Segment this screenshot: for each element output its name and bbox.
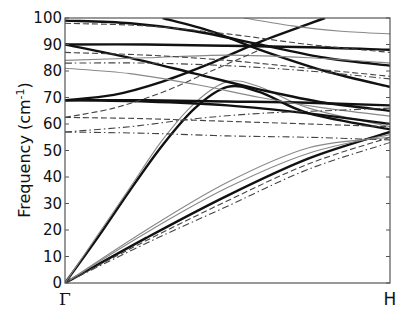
band-optical-90: [65, 44, 390, 49]
plot-frame: [65, 18, 390, 283]
band-optical-99-b: [163, 18, 391, 87]
band-acoustic-TA-dash: [65, 137, 390, 283]
band-acoustic-TA1-alt: [65, 135, 390, 283]
y-axis-title: Frequency (cm-1): [14, 82, 34, 218]
band-curves: [65, 18, 390, 283]
y-tick-label: 50: [43, 142, 62, 160]
y-tick-label: 100: [33, 9, 62, 27]
phonon-dispersion-chart: 0102030405060708090100 Γ H Frequency (cm…: [0, 0, 414, 317]
y-axis-ticks: 0102030405060708090100: [33, 9, 390, 292]
y-axis-title-sup: -1: [14, 88, 27, 99]
y-tick-label: 80: [43, 62, 62, 80]
y-tick-label: 30: [43, 195, 62, 213]
y-axis-title-main: Frequency (cm: [15, 99, 34, 217]
y-tick-label: 40: [43, 168, 62, 186]
y-tick-label: 70: [43, 89, 62, 107]
y-tick-label: 20: [43, 221, 62, 239]
band-acoustic-TA1: [65, 132, 390, 283]
x-tick-gamma: Γ: [59, 289, 71, 309]
y-tick-label: 90: [43, 36, 62, 54]
band-optical-62-dash: [65, 117, 390, 126]
band-acoustic-TA2-alt: [65, 137, 390, 283]
y-axis-title-close: ): [15, 82, 34, 88]
y-tick-label: 10: [43, 248, 62, 266]
y-tick-label: 60: [43, 115, 62, 133]
x-tick-h: H: [384, 289, 397, 309]
band-optical-57-dashdot: [65, 132, 390, 140]
